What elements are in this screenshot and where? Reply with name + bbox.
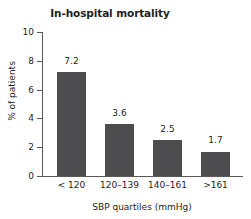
y-tick-label-10: 10: [10, 28, 34, 37]
bar-value-2: 2.5: [143, 125, 192, 134]
bar-value-1: 3.6: [95, 109, 144, 118]
bar-value-3: 1.7: [191, 136, 240, 145]
chart-figure: In-hospital mortality % of patients 0 2 …: [0, 0, 251, 219]
x-tick-label-2: 140–161: [143, 181, 192, 190]
bar-1[interactable]: [105, 124, 134, 176]
y-axis-spine: [42, 32, 43, 177]
x-tick-label-0: < 120: [47, 181, 96, 190]
y-tick-label-8: 8: [10, 57, 34, 66]
y-tick-2: [37, 147, 42, 148]
x-axis-spine: [41, 176, 243, 177]
y-tick-10: [37, 32, 42, 33]
y-tick-4: [37, 118, 42, 119]
y-tick-8: [37, 61, 42, 62]
chart-title: In-hospital mortality: [0, 7, 220, 19]
y-tick-label-6: 6: [10, 86, 34, 95]
y-tick-label-2: 2: [10, 143, 34, 152]
bar-3[interactable]: [201, 152, 230, 177]
y-tick-label-4: 4: [10, 114, 34, 123]
bar-0[interactable]: [57, 72, 86, 176]
y-tick-label-0: 0: [10, 172, 34, 181]
x-tick-label-3: >161: [191, 181, 240, 190]
x-tick-label-1: 120–139: [95, 181, 144, 190]
x-axis-label: SBP quartiles (mmHg): [41, 202, 243, 212]
bar-2[interactable]: [153, 140, 182, 176]
y-tick-0: [37, 176, 42, 177]
bar-value-0: 7.2: [47, 57, 96, 66]
y-tick-6: [37, 90, 42, 91]
